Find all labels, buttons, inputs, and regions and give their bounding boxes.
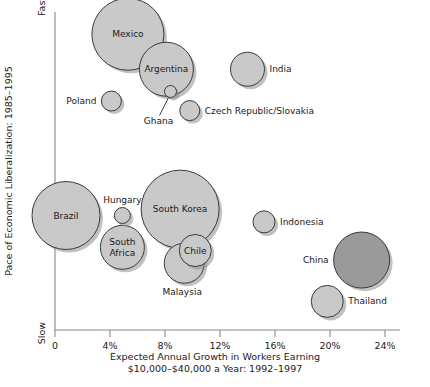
- y-axis-title: Pace of Economic Liberalization: 1985–19…: [3, 66, 14, 276]
- bubble-label-poland: Poland: [66, 96, 96, 106]
- leader-line-ghana: [160, 98, 169, 116]
- x-axis-title-line1: Expected Annual Growth in Workers Earnin…: [110, 351, 320, 362]
- bubble-label-south-korea: South Korea: [153, 204, 208, 214]
- x-axis-tick-label: 12%: [209, 340, 230, 351]
- bubble-label-india: India: [270, 64, 292, 74]
- y-axis-top-label: Fast: [36, 0, 47, 16]
- bubbles-group: [32, 0, 393, 320]
- x-axis-tick-label: 8%: [157, 340, 172, 351]
- bubble-body: [334, 232, 390, 288]
- bubble-india[interactable]: [231, 52, 268, 89]
- x-axis-tick-label: 24%: [374, 340, 395, 351]
- bubble-body: [231, 52, 265, 86]
- x-axis-tick-label: 16%: [264, 340, 285, 351]
- bubble-label-thailand: Thailand: [347, 296, 387, 306]
- bubble-thailand[interactable]: [311, 285, 346, 320]
- x-axis-title-line2: $10,000–$40,000 a Year: 1992–1997: [128, 363, 302, 374]
- bubble-hungary[interactable]: [114, 208, 133, 227]
- bubble-label-south-africa: SouthAfrica: [109, 237, 135, 258]
- x-axis-tick-label: 20%: [319, 340, 340, 351]
- bubble-label-indonesia: Indonesia: [280, 217, 324, 227]
- x-axis-tick-label: 4%: [102, 340, 117, 351]
- bubble-label-mexico: Mexico: [112, 29, 144, 39]
- bubble-indonesia[interactable]: [253, 211, 278, 236]
- bubble-czech-republic-slovakia[interactable]: [180, 101, 203, 124]
- x-axis-tick-label: 0: [52, 340, 58, 351]
- bubble-label-czech-republic-slovakia: Czech Republic/Slovakia: [205, 106, 314, 116]
- bubble-body: [311, 285, 343, 317]
- bubble-chart: MexicoArgentinaPolandGhanaCzech Republic…: [0, 0, 430, 387]
- bubble-label-hungary: Hungary: [103, 195, 142, 205]
- bubble-label-chile: Chile: [184, 246, 207, 256]
- bubble-body: [180, 101, 200, 121]
- bubble-body: [101, 91, 121, 111]
- bubble-china[interactable]: [334, 232, 393, 291]
- bubble-label-ghana: Ghana: [144, 116, 173, 126]
- bubble-body: [253, 211, 275, 233]
- y-axis-bottom-label: Slow: [36, 322, 47, 344]
- chart-canvas: MexicoArgentinaPolandGhanaCzech Republic…: [0, 0, 430, 387]
- bubble-poland[interactable]: [101, 91, 124, 114]
- bubble-label-china: China: [303, 255, 329, 265]
- bubble-label-argentina: Argentina: [144, 64, 188, 74]
- bubble-label-brazil: Brazil: [53, 211, 78, 221]
- bubble-body: [165, 86, 177, 98]
- bubble-body: [114, 208, 130, 224]
- bubble-label-malaysia: Malaysia: [163, 287, 202, 297]
